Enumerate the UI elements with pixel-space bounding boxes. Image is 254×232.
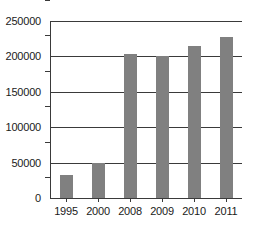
y-axis-tick-label: 200000 bbox=[0, 50, 41, 62]
gridline bbox=[50, 56, 242, 57]
bar-chart: 050000100000150000200000250000 199520002… bbox=[0, 0, 254, 232]
x-axis-tick-label: 2011 bbox=[215, 205, 238, 217]
x-axis-tick-label: 2010 bbox=[182, 205, 206, 217]
x-axis-tick-label: 2008 bbox=[118, 205, 142, 217]
gridline bbox=[50, 127, 242, 128]
y-axis-tick-label: 50000 bbox=[0, 157, 41, 169]
x-axis-tick-label: 1995 bbox=[54, 205, 78, 217]
x-axis-tick bbox=[98, 198, 99, 202]
bar bbox=[124, 54, 137, 198]
gridline bbox=[50, 163, 242, 164]
gridline bbox=[50, 21, 242, 22]
y-axis-tick bbox=[45, 142, 50, 143]
y-axis-tick-label: 250000 bbox=[0, 15, 41, 27]
gridline bbox=[50, 92, 242, 93]
x-axis-tick bbox=[130, 198, 131, 202]
y-axis-tick bbox=[45, 0, 50, 1]
x-axis-tick bbox=[66, 198, 67, 202]
x-axis-line bbox=[50, 198, 242, 199]
x-axis-tick-label: 2009 bbox=[150, 205, 174, 217]
plot-area bbox=[50, 21, 242, 198]
y-axis-tick-label: 150000 bbox=[0, 86, 41, 98]
y-axis-tick bbox=[45, 177, 50, 178]
y-axis-tick bbox=[45, 106, 50, 107]
y-axis-tick bbox=[45, 71, 50, 72]
bar bbox=[188, 46, 201, 198]
bar bbox=[156, 56, 169, 198]
x-axis-tick-label: 2000 bbox=[86, 205, 110, 217]
x-axis-tick bbox=[162, 198, 163, 202]
y-axis-tick-label: 0 bbox=[0, 192, 41, 204]
y-axis-tick-label: 100000 bbox=[0, 121, 41, 133]
x-axis-tick bbox=[194, 198, 195, 202]
bar bbox=[92, 163, 105, 198]
x-axis-tick bbox=[226, 198, 227, 202]
y-axis-tick bbox=[45, 35, 50, 36]
bar bbox=[220, 37, 233, 198]
bar bbox=[60, 175, 73, 198]
